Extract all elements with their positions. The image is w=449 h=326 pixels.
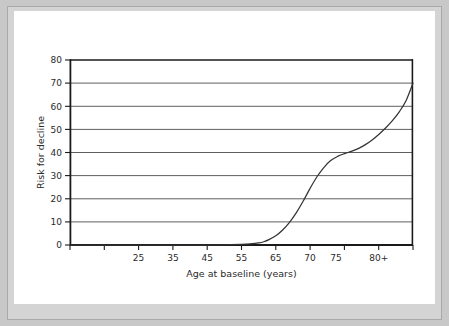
- x-tick-label-70: 70: [304, 253, 316, 263]
- x-tick-label-35: 35: [167, 253, 178, 263]
- x-tick-label-45: 45: [201, 253, 212, 263]
- y-tick-label-80: 80: [51, 55, 63, 65]
- risk-for-decline-line: [70, 83, 413, 245]
- y-tick-label-40: 40: [51, 148, 63, 158]
- risk-for-decline-chart: 0 10 20 30 40 50 60 70 80 25 35: [0, 0, 449, 326]
- chart-svg: 0 10 20 30 40 50 60 70 80 25 35: [0, 0, 449, 326]
- y-tick-label-20: 20: [51, 194, 63, 204]
- y-tick-labels: 0 10 20 30 40 50 60 70 80: [51, 55, 63, 250]
- x-tick-label-75: 75: [330, 253, 341, 263]
- x-tick-label-25: 25: [133, 253, 144, 263]
- y-tick-label-0: 0: [56, 240, 62, 250]
- x-tick-label-55: 55: [236, 253, 247, 263]
- x-axis-title: Age at baseline (years): [186, 268, 296, 279]
- y-tick-label-70: 70: [51, 78, 63, 88]
- x-tick-label-65: 65: [270, 253, 281, 263]
- y-tick-label-50: 50: [51, 125, 63, 135]
- y-tick-label-10: 10: [51, 217, 63, 227]
- y-tick-label-60: 60: [51, 102, 63, 112]
- x-tick-labels: 25 35 45 55 65 70 75 80+: [133, 253, 388, 263]
- y-tick-marks: [65, 60, 70, 245]
- y-tick-label-30: 30: [51, 171, 63, 181]
- y-axis-title: Risk for decline: [35, 116, 46, 189]
- gridlines-horizontal: [70, 83, 413, 222]
- x-tick-label-80plus: 80+: [369, 253, 388, 263]
